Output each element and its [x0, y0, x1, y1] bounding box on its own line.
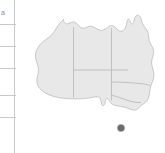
- australia-map-svg: [16, 0, 165, 153]
- table-column-divider: [14, 0, 15, 153]
- table-cell-text: a: [1, 9, 13, 17]
- table-row-divider: [0, 95, 16, 96]
- screenshot-root: a: [0, 0, 165, 153]
- table-row-divider: [0, 68, 16, 69]
- table-row-divider: [0, 117, 16, 118]
- australia-map: [16, 0, 165, 153]
- cropped-table-column: a: [0, 0, 16, 153]
- australia-mainland-shape: [35, 15, 154, 110]
- table-row-divider: [0, 46, 16, 47]
- table-row-divider: [0, 24, 16, 25]
- location-marker: [117, 124, 124, 131]
